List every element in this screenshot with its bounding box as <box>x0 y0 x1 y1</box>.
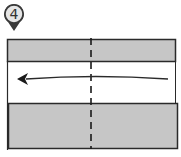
arrow-left-icon <box>17 73 168 85</box>
fold-diagram: 4 <box>0 0 181 157</box>
step-number: 4 <box>4 4 24 24</box>
bottom-paper-block <box>9 104 178 149</box>
